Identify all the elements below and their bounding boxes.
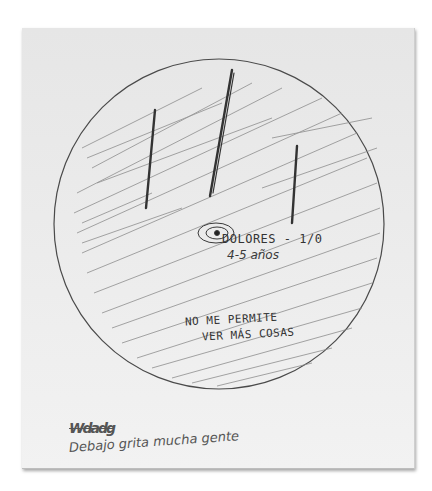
crossed-out-word: Wdadg xyxy=(69,420,114,436)
label-dolores: DOLORES - 1/0 xyxy=(222,232,322,246)
sketch-drawing xyxy=(22,28,414,468)
label-age: 4-5 años xyxy=(227,248,279,262)
scanned-paper: DOLORES - 1/0 4-5 años NO ME PERMITE VER… xyxy=(22,28,415,469)
